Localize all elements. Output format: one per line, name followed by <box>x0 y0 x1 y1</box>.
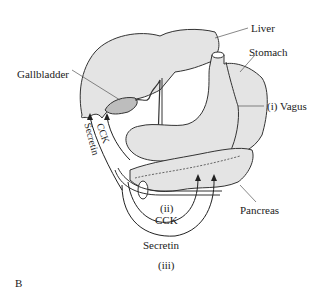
panel-label: B <box>15 278 22 289</box>
label-stomach: Stomach <box>249 47 288 58</box>
label-cck-lower: CCK <box>155 215 178 226</box>
liver <box>80 29 219 118</box>
duodenum <box>138 181 148 199</box>
label-pancreas: Pancreas <box>240 205 279 216</box>
label-ii: (ii) <box>160 203 173 214</box>
label-secretin-lower: Secretin <box>143 240 179 251</box>
label-gallbladder: Gallbladder <box>17 69 69 80</box>
label-vagus: (i) Vagus <box>267 101 307 112</box>
label-liver: Liver <box>251 23 275 34</box>
label-iii: (iii) <box>158 260 175 271</box>
